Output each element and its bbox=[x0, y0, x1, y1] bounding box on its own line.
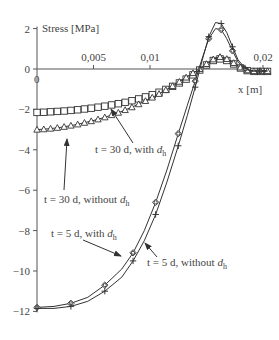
diamond-marker-dot bbox=[103, 284, 106, 287]
square-marker bbox=[68, 107, 74, 113]
y-tick-label: −6 bbox=[18, 184, 30, 196]
square-marker bbox=[95, 104, 101, 110]
annotation-label: t = 5 d, with dh bbox=[51, 227, 117, 242]
arrow-icon bbox=[145, 243, 157, 257]
y-tick-label: −12 bbox=[13, 305, 30, 317]
diamond-marker-dot bbox=[154, 201, 157, 204]
square-marker bbox=[54, 108, 60, 114]
x-tick-label: 0,02 bbox=[253, 51, 272, 63]
triangle-marker bbox=[115, 109, 121, 115]
diamond-marker-dot bbox=[220, 28, 223, 31]
axes bbox=[37, 27, 266, 313]
square-marker bbox=[74, 107, 80, 113]
triangle-marker bbox=[122, 107, 128, 113]
square-marker bbox=[108, 102, 114, 108]
square-marker bbox=[34, 109, 40, 115]
square-marker bbox=[122, 99, 128, 105]
annotation-label: t = 30 d, without dh bbox=[44, 193, 129, 208]
square-marker bbox=[115, 101, 121, 107]
square-marker bbox=[88, 105, 94, 111]
x-tick-label: 0,005 bbox=[81, 51, 106, 63]
y-tick-label: −2 bbox=[18, 103, 30, 115]
x-axis-label: x [m] bbox=[238, 83, 262, 95]
square-marker bbox=[61, 108, 67, 114]
arrow-icon bbox=[111, 109, 133, 143]
arrow-icon bbox=[83, 240, 121, 256]
annotations: t = 30 d, with dht = 30 d, without dht =… bbox=[44, 109, 227, 271]
y-tick-label: −4 bbox=[18, 144, 30, 156]
diamond-marker-dot bbox=[177, 132, 180, 135]
annotation: t = 5 d, with dh bbox=[51, 227, 121, 256]
square-marker bbox=[81, 106, 87, 112]
square-marker bbox=[102, 103, 108, 109]
y-tick-label: −8 bbox=[18, 225, 30, 237]
y-axis-label: Stress [MPa] bbox=[42, 22, 99, 34]
annotation-label: t = 30 d, with dh bbox=[95, 143, 166, 158]
square-marker bbox=[41, 109, 47, 115]
annotation: t = 5 d, without dh bbox=[145, 243, 227, 271]
stress-chart: 20−2−4−6−8−10−1200,0050,010,02 t = 30 d,… bbox=[0, 0, 279, 340]
y-tick-label: 2 bbox=[25, 23, 31, 35]
y-tick-label: 0 bbox=[25, 63, 31, 75]
diamond-marker-dot bbox=[131, 251, 134, 254]
square-marker bbox=[47, 109, 53, 115]
y-tick-label: −10 bbox=[13, 265, 31, 277]
annotation-label: t = 5 d, without dh bbox=[147, 256, 227, 271]
x-tick-label: 0,01 bbox=[140, 51, 159, 63]
triangle-marker bbox=[129, 104, 135, 110]
x-tick-label: 0 bbox=[34, 73, 40, 85]
square-marker bbox=[129, 98, 135, 104]
arrow-icon bbox=[64, 139, 67, 190]
